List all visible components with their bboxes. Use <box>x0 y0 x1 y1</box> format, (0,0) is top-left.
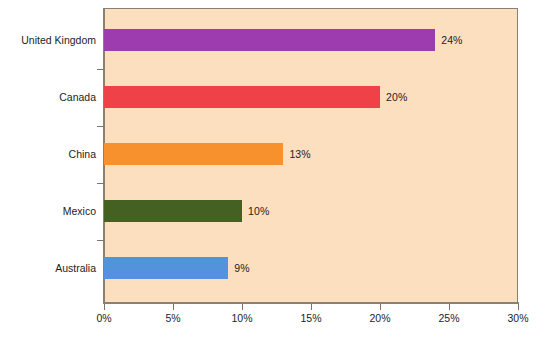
bar-value-label: 20% <box>386 91 407 103</box>
category-label: Australia <box>0 262 96 274</box>
x-axis-tick <box>173 304 174 310</box>
bar-value-label: 9% <box>234 262 249 274</box>
bar-row: 13% <box>104 143 518 165</box>
bar <box>104 29 435 51</box>
bar <box>104 257 228 279</box>
category-label: United Kingdom <box>0 34 96 46</box>
bar-row: 24% <box>104 29 518 51</box>
y-axis-tick <box>97 240 104 241</box>
bar <box>104 200 242 222</box>
x-axis-tick-label: 5% <box>165 312 180 324</box>
bar <box>104 143 283 165</box>
y-axis-tick <box>97 126 104 127</box>
category-label: Canada <box>0 91 96 103</box>
x-axis-tick <box>242 304 243 310</box>
x-axis-tick-label: 30% <box>507 312 528 324</box>
bar <box>104 86 380 108</box>
bar-row: 20% <box>104 86 518 108</box>
x-axis-tick-label: 15% <box>300 312 321 324</box>
x-axis-tick <box>311 304 312 310</box>
x-axis-tick <box>518 304 519 310</box>
category-label: Mexico <box>0 205 96 217</box>
y-axis-tick <box>97 183 104 184</box>
category-label: China <box>0 148 96 160</box>
bar-value-label: 24% <box>441 34 462 46</box>
x-axis-tick <box>104 304 105 310</box>
x-axis-tick-label: 10% <box>231 312 252 324</box>
y-axis-tick <box>97 69 104 70</box>
x-axis-tick <box>449 304 450 310</box>
x-axis-tick-label: 20% <box>369 312 390 324</box>
bar-row: 9% <box>104 257 518 279</box>
bar-value-label: 10% <box>248 205 269 217</box>
x-axis-tick <box>380 304 381 310</box>
bar-value-label: 13% <box>289 148 310 160</box>
x-axis-tick-label: 0% <box>96 312 111 324</box>
bar-row: 10% <box>104 200 518 222</box>
x-axis-tick-label: 25% <box>438 312 459 324</box>
bar-chart: 24%20%13%10%9% United KingdomCanadaChina… <box>0 0 552 341</box>
